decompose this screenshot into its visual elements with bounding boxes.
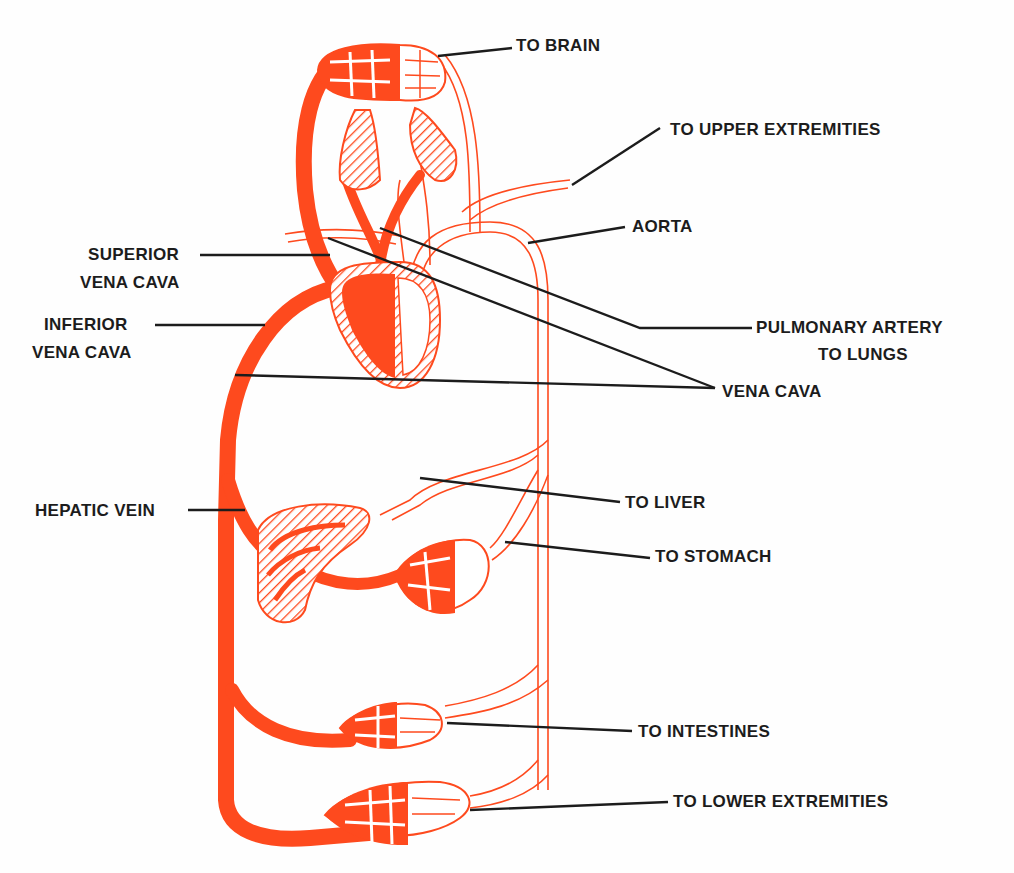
label-to-upper-extremities: TO UPPER EXTREMITIES: [670, 118, 881, 142]
label-to-intestines: TO INTESTINES: [638, 720, 770, 744]
leader-aorta: [528, 227, 625, 243]
label-to-liver: TO LIVER: [625, 491, 706, 515]
intestine-capillary-bed: [340, 702, 442, 748]
leader-to-brain: [438, 48, 512, 56]
leader-vena-cava-lower: [235, 375, 715, 388]
label-superior-vena-cava-line2: VENA CAVA: [80, 271, 180, 295]
liver: [258, 504, 369, 622]
stomach-capillary-bed: [395, 540, 489, 614]
leader-to-liver: [420, 478, 620, 502]
label-to-lower-extremities: TO LOWER EXTREMITIES: [673, 790, 888, 814]
label-inferior-vena-cava-line2: VENA CAVA: [32, 341, 132, 365]
label-to-brain: TO BRAIN: [516, 34, 600, 58]
leader-to-intestines: [447, 723, 632, 731]
label-inferior-vena-cava-line1: INFERIOR: [44, 313, 128, 337]
leader-to-upper-extremities: [572, 128, 660, 185]
label-superior-vena-cava-line1: SUPERIOR: [88, 243, 179, 267]
label-vena-cava: VENA CAVA: [722, 380, 822, 404]
label-aorta: AORTA: [632, 215, 693, 239]
heart: [330, 262, 440, 388]
label-to-stomach: TO STOMACH: [655, 545, 772, 569]
label-pulmonary-artery-line2: TO LUNGS: [818, 343, 908, 367]
leader-to-stomach: [505, 542, 650, 558]
circulatory-diagram: TO BRAIN TO UPPER EXTREMITIES AORTA SUPE…: [0, 0, 1014, 873]
label-pulmonary-artery-line1: PULMONARY ARTERY: [756, 316, 943, 340]
brain-capillary-bed: [318, 44, 445, 100]
lungs: [340, 108, 457, 189]
label-hepatic-vein: HEPATIC VEIN: [35, 499, 155, 523]
